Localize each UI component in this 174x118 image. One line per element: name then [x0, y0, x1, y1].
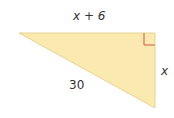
- triangle: [19, 33, 155, 108]
- label-right-side: x: [161, 64, 168, 78]
- label-hypotenuse: 30: [69, 78, 84, 92]
- label-top-side: x + 6: [73, 9, 105, 23]
